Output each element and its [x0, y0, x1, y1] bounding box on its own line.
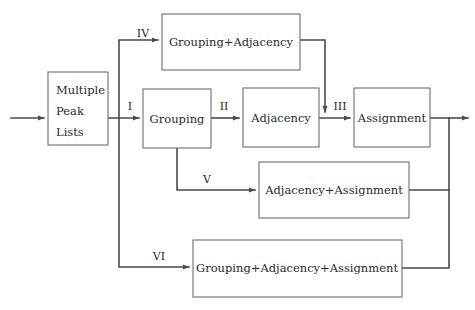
node-multiple-peak-lists-line-3: Lists — [56, 125, 84, 139]
edge-label-iii: III — [333, 100, 346, 113]
edge-label-v: V — [202, 173, 212, 186]
edge-v-line — [177, 148, 255, 190]
node-multiple-peak-lists-line-2: Peak — [56, 104, 85, 118]
edge-label-i: I — [128, 100, 132, 113]
node-adjacency-assignment-label: Adjacency+Assignment — [264, 183, 403, 197]
edge-label-vi: VI — [152, 250, 165, 263]
edge-label-iv: IV — [137, 27, 150, 40]
node-adjacency-label: Adjacency — [250, 111, 311, 125]
node-grouping-adjacency-assignment-label: Grouping+Adjacency+Assignment — [196, 261, 398, 275]
node-assignment-label: Assignment — [357, 111, 427, 125]
flowchart-diagram: Multiple Peak Lists Grouping Adjacency A… — [0, 0, 475, 310]
edge-label-ii: II — [220, 100, 229, 113]
node-grouping-label: Grouping — [150, 112, 205, 126]
diagram-canvas: Multiple Peak Lists Grouping Adjacency A… — [0, 0, 475, 310]
node-grouping-adjacency-label: Grouping+Adjacency — [169, 35, 294, 49]
node-multiple-peak-lists-line-1: Multiple — [56, 83, 105, 97]
